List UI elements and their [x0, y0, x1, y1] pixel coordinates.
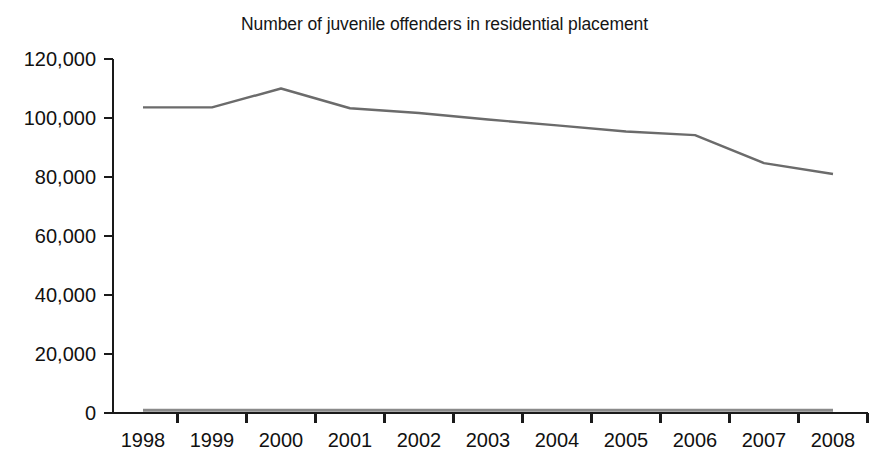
- x-tick-label: 2006: [673, 430, 718, 450]
- x-tick-label: 2005: [604, 430, 649, 450]
- x-tick-label: 2000: [259, 430, 304, 450]
- x-tick-label: 1998: [121, 430, 166, 450]
- x-tick-label: 2002: [397, 430, 442, 450]
- x-axis-tick-labels: 1998199920002001200220032004200520062007…: [0, 0, 889, 472]
- x-tick-label: 2001: [328, 430, 373, 450]
- chart-container: Number of juvenile offenders in resident…: [0, 0, 889, 472]
- x-tick-label: 2004: [535, 430, 580, 450]
- x-tick-label: 1999: [190, 430, 235, 450]
- x-tick-label: 2003: [466, 430, 511, 450]
- x-tick-label: 2008: [811, 430, 856, 450]
- x-tick-label: 2007: [742, 430, 787, 450]
